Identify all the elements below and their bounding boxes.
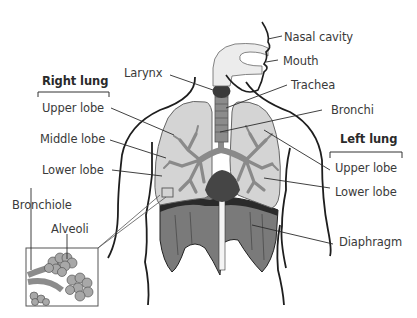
anatomy-illustration [0,0,417,318]
nasal-cavity-label: Nasal cavity [284,30,353,44]
right-lower-lobe-label: Lower lobe [42,163,104,177]
airway-shape [213,44,268,87]
trachea-label: Trachea [291,78,335,92]
larynx-label: Larynx [124,66,162,80]
left-lower-lobe-label: Lower lobe [335,185,397,199]
left-lung-bracket [330,152,402,158]
right-upper-lobe-label: Upper lobe [42,101,104,115]
right-middle-lobe-label: Middle lobe [40,132,105,146]
respiratory-diagram: Right lung Upper lobe Middle lobe Lower … [0,0,417,318]
mouth-label: Mouth [283,54,319,68]
bronchiole-label: Bronchiole [12,198,72,212]
right-lung-heading: Right lung [42,74,108,88]
right-lung-shape [155,101,212,205]
diaphragm-label: Diaphragm [339,235,402,249]
alveoli-label: Alveoli [51,222,89,236]
left-upper-lobe-label: Upper lobe [335,161,397,175]
left-lung-heading: Left lung [340,132,397,146]
right-lung-bracket [38,92,109,97]
diaphragm-shape [160,195,278,275]
bronchi-label: Bronchi [331,103,374,117]
